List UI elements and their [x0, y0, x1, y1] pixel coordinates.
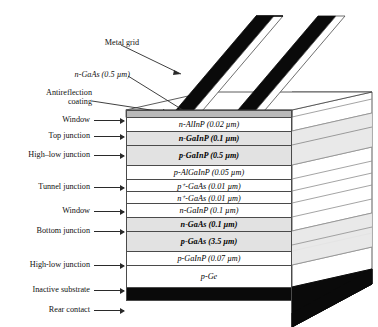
layer-p-algainp-text: p-AlGaInP (0.05 µm) — [174, 168, 244, 177]
layer-p-gainp-bsf: p-GaInP (0.07 µm) — [126, 251, 292, 265]
layer-window-mid: n-GaInP (0.1 µm) — [126, 203, 292, 217]
leader-high-low-bottom — [94, 265, 124, 266]
callout-window-top: Window — [4, 115, 90, 125]
figure-root: Metal grid n-GaAs (0.5 µm) Antireflectio… — [0, 0, 378, 327]
layer-window-top: n-AlInP (0.02 µm) — [126, 117, 292, 131]
leader-top-junction — [94, 136, 124, 137]
callout-window-mid: Window — [4, 206, 90, 216]
layer-arc — [126, 110, 292, 117]
leader-high-low-top — [94, 155, 124, 156]
callout-high-low-junction-top: High–low junction — [0, 150, 90, 160]
layer-p-gainp: p-GaInP (0.5 µm) — [126, 145, 292, 165]
layer-n-gaas-text: n-GaAs (0.1 µm) — [181, 220, 238, 229]
leader-tunnel-junction — [94, 187, 124, 188]
layer-window-mid-text: n-GaInP (0.1 µm) — [180, 206, 239, 215]
leader-bottom-junction — [94, 231, 124, 232]
leader-rear-contact — [94, 310, 124, 311]
callout-n-gaas-cap: n-GaAs (0.5 µm) — [20, 70, 130, 80]
layer-p-gaas: p-GaAs (3.5 µm) — [126, 231, 292, 251]
layer-window-top-text: n-AlInP (0.02 µm) — [179, 120, 239, 129]
callout-metal-grid: Metal grid — [82, 38, 162, 48]
layer-stack: n-AlInP (0.02 µm) n-GaInP (0.1 µm) p-GaI… — [126, 110, 292, 301]
layer-p-plus-gaas-text: p⁺-GaAs (0.01 µm) — [177, 181, 241, 191]
layer-p-ge: p-Ge — [126, 265, 292, 287]
layer-p-algainp: p-AlGaInP (0.05 µm) — [126, 165, 292, 179]
callout-high-low-junction-bottom: High-low junction — [0, 260, 90, 270]
layer-n-gainp-text: n-GaInP (0.1 µm) — [179, 134, 240, 143]
callout-top-junction: Top junction — [4, 131, 90, 141]
layer-p-gaas-text: p-GaAs (3.5 µm) — [181, 237, 237, 246]
layer-n-gainp: n-GaInP (0.1 µm) — [126, 131, 292, 145]
layer-n-plus-gaas: n⁺-GaAs (0.01 µm) — [126, 191, 292, 203]
layer-p-gainp-bsf-text: p-GaInP (0.07 µm) — [177, 254, 240, 263]
layer-rear-contact — [126, 287, 292, 301]
callout-antireflection-line2: coating — [0, 97, 92, 107]
layer-p-plus-gaas: p⁺-GaAs (0.01 µm) — [126, 179, 292, 191]
callout-tunnel-junction: Tunnel junction — [4, 182, 90, 192]
callout-rear-contact: Rear contact — [4, 305, 90, 315]
leader-metal-grid — [121, 45, 181, 75]
layer-p-gainp-text: p-GaInP (0.5 µm) — [179, 151, 239, 160]
layer-p-ge-text: p-Ge — [201, 272, 217, 281]
layer-n-plus-gaas-text: n⁺-GaAs (0.01 µm) — [177, 193, 241, 203]
layer-n-gaas: n-GaAs (0.1 µm) — [126, 217, 292, 231]
callout-inactive-substrate: Inactive substrate — [4, 285, 90, 295]
leader-window-top — [94, 120, 124, 121]
leader-window-mid — [94, 211, 124, 212]
callout-bottom-junction: Bottom junction — [4, 226, 90, 236]
leader-inactive-substrate — [94, 290, 124, 291]
